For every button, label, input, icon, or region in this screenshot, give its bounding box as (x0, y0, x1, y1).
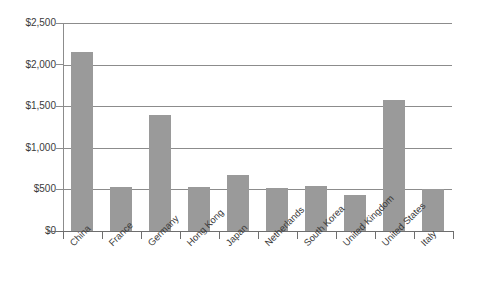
y-axis-tick-label: $2,500 (25, 18, 56, 28)
x-axis-tick-mark (180, 232, 181, 239)
x-axis-tick-mark (63, 232, 64, 239)
bar-germany[interactable] (149, 115, 171, 231)
y-axis-tick-mark (56, 106, 63, 107)
y-axis-tick-label: $1,500 (25, 101, 56, 111)
x-axis-tick-mark (102, 232, 103, 239)
x-axis-tick-mark (414, 232, 415, 239)
bar-chart: $2,500 $2,000 $1,500 $1,000 $500 $0 (0, 0, 478, 308)
y-axis-tick-mark (56, 23, 63, 24)
x-axis-tick-mark (453, 232, 454, 239)
x-axis-tick-mark (336, 232, 337, 239)
x-axis-tick-mark (297, 232, 298, 239)
x-axis-tick-mark (219, 232, 220, 239)
y-axis-tick-label: $2,000 (25, 60, 56, 70)
x-axis-tick-mark (141, 232, 142, 239)
y-axis-tick-mark (56, 189, 63, 190)
y-axis-tick-mark (56, 148, 63, 149)
y-axis-tick-mark (56, 64, 63, 65)
bar-china[interactable] (71, 52, 93, 231)
y-axis-tick-label: $1,000 (25, 143, 56, 153)
bar-united-states[interactable] (383, 100, 405, 231)
x-axis-tick-mark (258, 232, 259, 239)
y-axis-tick-label: $500 (34, 184, 56, 194)
bar-japan[interactable] (227, 175, 249, 231)
x-axis-tick-mark (375, 232, 376, 239)
